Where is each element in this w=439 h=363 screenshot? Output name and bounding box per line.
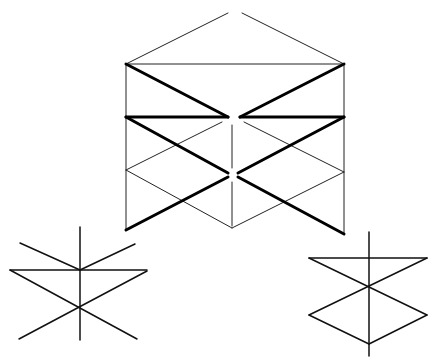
line bbox=[309, 315, 369, 344]
main-figure-thin-lines bbox=[126, 13, 344, 234]
line bbox=[80, 244, 135, 270]
line bbox=[19, 271, 147, 339]
right-hourglass-figure bbox=[309, 232, 427, 356]
bold-line bbox=[126, 177, 228, 230]
bold-line bbox=[126, 117, 228, 173]
thin-line bbox=[126, 170, 232, 228]
thin-line bbox=[244, 122, 344, 172]
thin-line bbox=[242, 13, 344, 64]
main-figure-bold-lines bbox=[126, 64, 344, 234]
bold-line bbox=[240, 64, 344, 117]
line bbox=[20, 243, 80, 270]
line bbox=[10, 270, 137, 339]
left-star-figure bbox=[10, 227, 147, 340]
thin-line bbox=[232, 172, 344, 228]
thin-line bbox=[126, 13, 228, 64]
bold-line bbox=[238, 177, 344, 234]
diagram-canvas bbox=[0, 0, 439, 363]
diagram-svg bbox=[0, 0, 439, 363]
bold-line bbox=[126, 64, 228, 117]
line bbox=[369, 315, 427, 344]
